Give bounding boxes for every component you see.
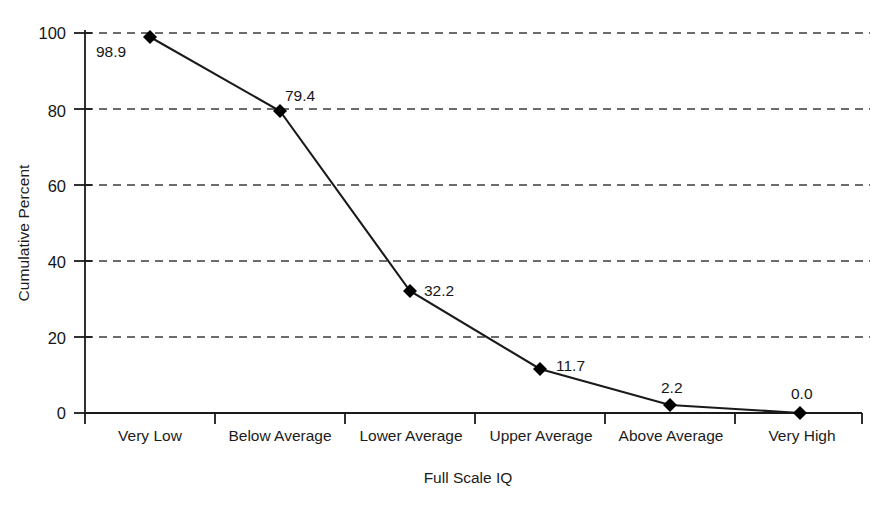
data-point-marker-4 bbox=[663, 398, 677, 412]
data-line bbox=[150, 37, 800, 413]
data-point-label-2: 32.2 bbox=[424, 283, 454, 299]
x-category-label-very-low: Very Low bbox=[90, 428, 210, 444]
x-category-label-very-high: Very High bbox=[740, 428, 864, 444]
x-category-label-below-average: Below Average bbox=[208, 428, 352, 444]
data-point-marker-5 bbox=[793, 406, 807, 420]
data-point-label-5: 0.0 bbox=[791, 386, 813, 402]
x-category-label-lower-average: Lower Average bbox=[340, 428, 482, 444]
data-point-label-1: 79.4 bbox=[285, 88, 315, 104]
gridlines bbox=[85, 33, 870, 337]
x-axis-ticks bbox=[85, 413, 862, 424]
data-point-label-4: 2.2 bbox=[661, 380, 683, 396]
data-point-label-0: 98.9 bbox=[96, 44, 126, 60]
y-axis-ticks bbox=[74, 33, 92, 413]
data-point-marker-0 bbox=[143, 30, 157, 44]
x-axis-title-text: Full Scale IQ bbox=[424, 469, 513, 486]
data-point-label-3: 11.7 bbox=[556, 358, 585, 374]
data-point-marker-2 bbox=[403, 284, 417, 298]
x-category-label-upper-average: Upper Average bbox=[470, 428, 612, 444]
cumulative-percent-line-chart: Cumulative Percent 0 20 40 60 80 100 bbox=[0, 0, 892, 505]
data-point-marker-1 bbox=[273, 104, 287, 118]
x-category-label-above-average: Above Average bbox=[600, 428, 742, 444]
x-axis-title: Full Scale IQ bbox=[0, 469, 892, 487]
data-point-marker-3 bbox=[533, 362, 547, 376]
data-markers bbox=[143, 30, 807, 420]
